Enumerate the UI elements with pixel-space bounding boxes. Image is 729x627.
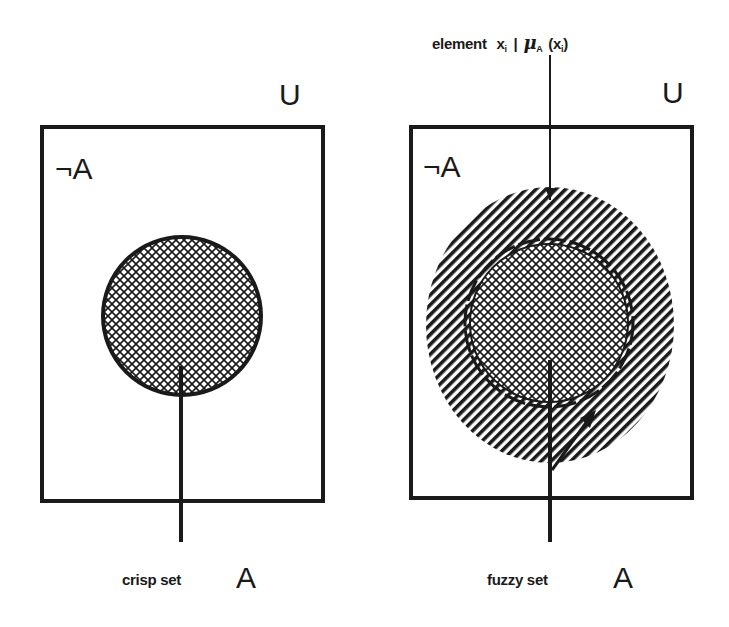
universe-label-right: U	[662, 76, 684, 110]
crisp-set-caption-text: crisp set	[122, 571, 181, 588]
diagram-canvas	[0, 0, 729, 627]
annotation-x: x	[496, 35, 504, 52]
annotation-arg-open: (x	[548, 35, 561, 52]
annotation-x-subscript: i	[505, 44, 507, 54]
fuzzy-set-symbol: A	[613, 561, 633, 595]
complement-label-left: ¬A	[55, 152, 93, 186]
fuzzy-set-caption: fuzzy set	[487, 571, 548, 588]
annotation-arg-close: )	[563, 35, 568, 52]
annotation-prefix: element	[432, 35, 487, 52]
complement-label-right: ¬A	[423, 150, 461, 184]
annotation-bar: |	[514, 35, 518, 52]
universe-label-left: U	[279, 78, 301, 112]
membership-annotation: element xi | μA (xi)	[432, 32, 568, 54]
membership-function-symbol: μ	[523, 32, 536, 53]
crisp-vs-fuzzy-set-diagram: U ¬A crisp set A U ¬A fuzzy set A elemen…	[0, 0, 729, 627]
fuzzy-set-panel	[411, 55, 692, 542]
annotation-mu-subscript: A	[536, 44, 542, 54]
crisp-set-caption: crisp set	[122, 571, 181, 588]
crisp-set-symbol: A	[236, 561, 256, 595]
crisp-set-panel	[42, 127, 323, 542]
fuzzy-set-caption-text: fuzzy set	[487, 571, 548, 588]
